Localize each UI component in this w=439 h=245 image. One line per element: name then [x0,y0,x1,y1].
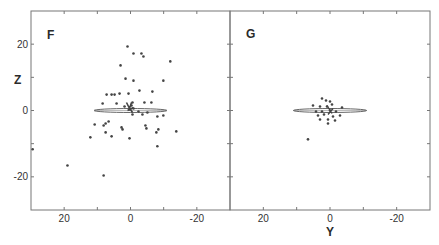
data-point [307,138,310,141]
y-tick-label: 20 [17,39,29,50]
data-point [334,119,337,122]
data-point [110,135,113,138]
data-point [315,110,318,113]
data-point [138,89,141,92]
data-point [325,99,328,102]
panel-g: 200-20G [230,11,430,224]
dense-cluster [127,103,134,113]
x-axis-label: Y [326,225,334,239]
y-tick-label: 0 [22,105,28,116]
data-point [331,103,334,106]
data-point [157,128,160,131]
data-point [115,102,118,105]
data-point [113,93,116,96]
data-point [145,127,148,130]
data-point [339,114,342,117]
data-point [31,148,34,151]
data-point [118,92,121,95]
data-point [102,174,105,177]
data-point [335,110,338,113]
data-point [317,114,320,117]
y-axis-label: Z [14,73,21,87]
data-point [323,113,326,116]
data-point [89,136,92,139]
panel-label: F [47,28,54,42]
data-point [327,118,330,121]
x-tick-label: 0 [327,213,333,224]
data-point [105,93,108,96]
data-point [124,77,127,80]
data-point [141,113,144,116]
data-point [132,52,135,55]
data-point [126,45,129,48]
data-point [144,124,147,127]
data-point [101,102,104,105]
data-point [327,122,330,125]
data-point [137,110,140,113]
data-point [329,100,332,103]
data-point [150,101,153,104]
x-tick-label: 20 [59,213,71,224]
data-point [169,60,172,63]
data-point [332,115,335,118]
data-point [123,105,126,108]
data-point [132,79,135,82]
data-point [319,105,322,108]
data-point [66,164,69,167]
data-point [110,93,113,96]
data-point [162,79,165,82]
data-point [102,124,105,127]
data-point [156,115,159,118]
data-point [175,130,178,133]
data-point [155,131,158,134]
data-point [312,104,315,107]
data-point [151,90,154,93]
data-point [104,122,107,125]
x-tick-label: 20 [258,213,270,224]
dense-cluster [327,106,333,115]
data-point [319,118,322,121]
data-point [341,106,344,109]
data-point [131,113,134,116]
panel-f: 200-20200-20F [14,11,230,224]
data-point [142,55,145,58]
figure-canvas: 200-20200-20F 200-20G Z Y [0,0,439,245]
x-tick-label: 0 [128,213,134,224]
data-point [156,145,159,148]
data-point [107,120,110,123]
data-point [119,64,122,67]
data-point [143,101,146,104]
data-point [104,131,107,134]
x-tick-label: -20 [389,213,404,224]
data-point [321,110,324,113]
y-tick-label: -20 [14,171,29,182]
data-point [128,137,131,140]
data-point [127,92,130,95]
data-point [140,52,143,55]
panel-label: G [246,27,255,41]
data-point [162,114,165,117]
data-point [93,123,96,126]
data-point [146,111,149,114]
data-point [321,97,324,100]
x-tick-label: -20 [190,213,205,224]
data-point [121,128,124,131]
